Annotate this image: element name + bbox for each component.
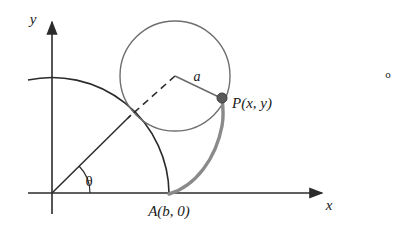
stray-mark-label: o (385, 68, 391, 80)
involute-diagram: y x a θ P(x, y) A(b, 0) o (0, 0, 408, 228)
dashed-radius-segment (128, 76, 175, 118)
x-axis-label: x (325, 197, 333, 213)
involute-curve (169, 98, 223, 194)
theta-label: θ (85, 173, 92, 189)
point-p-marker (217, 93, 227, 103)
point-a-label: A(b, 0) (147, 203, 190, 220)
radius-a-label: a (194, 69, 201, 84)
point-p-label: P(x, y) (231, 95, 272, 112)
base-circle-arc (28, 78, 169, 193)
figure-root: y x a θ P(x, y) A(b, 0) o (0, 0, 408, 228)
y-axis-label: y (28, 11, 37, 27)
